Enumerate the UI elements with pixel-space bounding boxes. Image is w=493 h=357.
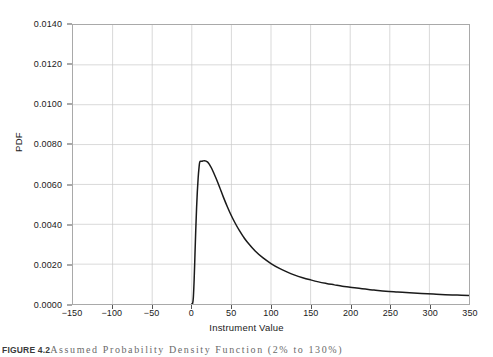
x-tick-mark bbox=[390, 305, 391, 309]
y-tick-label: 0.0000 bbox=[34, 301, 62, 310]
y-tick-label: 0.0080 bbox=[34, 140, 62, 149]
x-tick-mark bbox=[311, 305, 312, 309]
y-axis-tick-labels: 0.00000.00200.00400.00600.00800.01000.01… bbox=[0, 24, 68, 305]
x-tick-label: 350 bbox=[462, 308, 477, 318]
x-tick-label: 50 bbox=[226, 308, 236, 318]
x-tick-label: −50 bbox=[144, 308, 160, 318]
x-tick-label: 250 bbox=[383, 308, 398, 318]
y-tick-label: 0.0140 bbox=[34, 20, 62, 29]
x-tick-label: 0 bbox=[189, 308, 194, 318]
y-axis-title: PDF bbox=[13, 132, 24, 152]
y-tick-label: 0.0020 bbox=[34, 260, 62, 269]
x-tick-mark bbox=[271, 305, 272, 309]
y-tick-label: 0.0120 bbox=[34, 60, 62, 69]
x-tick-mark bbox=[351, 305, 352, 309]
x-tick-label: −100 bbox=[101, 308, 122, 318]
figure-container: 0.00000.00200.00400.00600.00800.01000.01… bbox=[0, 0, 493, 357]
y-tick-label: 0.0040 bbox=[34, 220, 62, 229]
x-tick-label: 150 bbox=[303, 308, 318, 318]
x-tick-mark bbox=[430, 305, 431, 309]
figure-caption-label: FIGURE 4.2 bbox=[2, 345, 50, 355]
figure-caption-text: Assumed Probability Density Function (2%… bbox=[50, 344, 343, 355]
x-tick-label: 300 bbox=[423, 308, 438, 318]
x-tick-mark bbox=[231, 305, 232, 309]
y-tick-label: 0.0060 bbox=[34, 180, 62, 189]
plot-area bbox=[72, 24, 470, 305]
x-tick-mark bbox=[191, 305, 192, 309]
x-axis-title: Instrument Value bbox=[0, 322, 493, 333]
y-tick-label: 0.0100 bbox=[34, 100, 62, 109]
x-axis-tick-labels: −150−100−50050100150200250300350 bbox=[72, 308, 470, 322]
x-tick-label: 100 bbox=[263, 308, 278, 318]
x-tick-label: −150 bbox=[62, 308, 83, 318]
x-tick-label: 200 bbox=[343, 308, 358, 318]
figure-caption: FIGURE 4.2Assumed Probability Density Fu… bbox=[2, 344, 491, 356]
x-tick-mark bbox=[152, 305, 153, 309]
pdf-curve bbox=[73, 25, 469, 304]
x-tick-mark bbox=[112, 305, 113, 309]
